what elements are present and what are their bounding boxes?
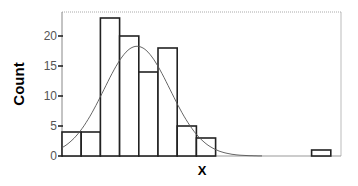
histogram-bar xyxy=(81,132,100,156)
y-axis-ticks: 05101520 xyxy=(44,29,63,163)
y-tick-label: 20 xyxy=(44,29,58,43)
histogram-bar xyxy=(312,150,331,156)
histogram-bar xyxy=(196,138,215,156)
y-axis-label: Count xyxy=(10,62,27,105)
y-tick-label: 0 xyxy=(50,149,57,163)
histogram-bar xyxy=(120,36,139,156)
histogram-bars xyxy=(62,18,331,156)
y-tick-label: 10 xyxy=(44,89,58,103)
histogram-bar xyxy=(100,18,119,156)
histogram-bar xyxy=(62,132,81,156)
histogram-bar xyxy=(139,72,158,156)
histogram-chart: 05101520 Count X xyxy=(0,0,358,186)
y-tick-label: 15 xyxy=(44,59,58,73)
histogram-bar xyxy=(158,48,177,156)
x-axis-label: X xyxy=(198,163,207,178)
y-tick-label: 5 xyxy=(50,119,57,133)
